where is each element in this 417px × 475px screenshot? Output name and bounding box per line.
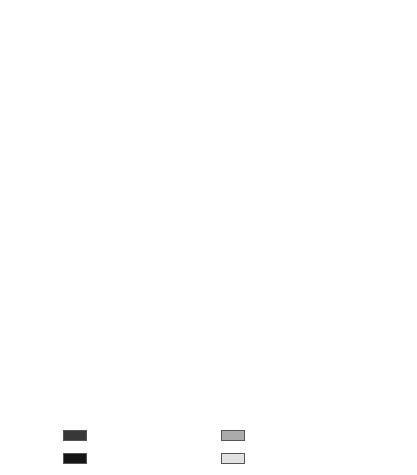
legend-item-10b-plus [221, 453, 251, 464]
legend-swatch [221, 453, 245, 464]
legend-item-100m-1b [63, 453, 93, 464]
legend-swatch [63, 453, 87, 464]
legend-swatch [221, 430, 245, 441]
legend-swatch [63, 430, 87, 441]
pie-charts [0, 0, 417, 475]
legend-item-under-100m [63, 430, 93, 441]
legend-item-1b-10b [221, 430, 251, 441]
